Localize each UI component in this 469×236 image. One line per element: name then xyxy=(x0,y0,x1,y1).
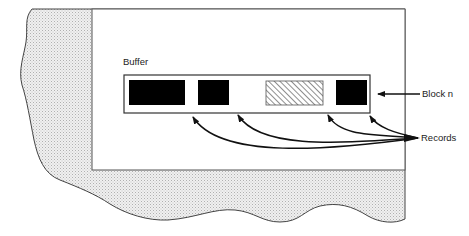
record-2 xyxy=(198,80,229,105)
record-4 xyxy=(336,80,367,105)
block-n-label: Block n xyxy=(422,89,453,99)
buffer-diagram xyxy=(0,0,469,236)
record-1 xyxy=(129,80,185,105)
record-3-hatched xyxy=(266,81,323,105)
buffer-label: Buffer xyxy=(123,57,148,67)
records-label: Records xyxy=(421,133,456,143)
records-arrow-tip xyxy=(404,134,420,142)
